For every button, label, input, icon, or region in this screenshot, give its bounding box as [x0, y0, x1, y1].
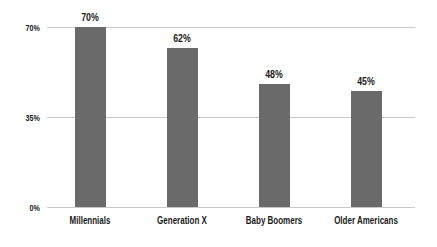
value-text-baby-boomers: 48%: [265, 68, 283, 81]
bar-generation-x: [167, 48, 198, 207]
value-label-older-americans: 45%: [355, 75, 377, 88]
y-tick-text-70-: 70%: [26, 23, 40, 33]
value-label-baby-boomers: 48%: [263, 68, 285, 81]
y-tick-label-0-: 0%: [0, 203, 40, 213]
category-text-millennials: Millennials: [70, 215, 111, 227]
value-text-older-americans: 45%: [357, 75, 375, 88]
category-text-older-americans: Older Americans: [334, 215, 398, 227]
y-tick-label-35-: 35%: [0, 113, 40, 123]
gridline-0-: [47, 207, 415, 208]
bar-older-americans: [351, 91, 382, 207]
category-label-millennials: Millennials: [64, 215, 115, 227]
value-text-millennials: 70%: [81, 11, 99, 24]
category-text-generation-x: Generation X: [157, 215, 207, 227]
value-text-generation-x: 62%: [173, 32, 191, 45]
y-tick-text-0-: 0%: [30, 203, 40, 213]
category-label-generation-x: Generation X: [151, 215, 213, 227]
y-tick-label-70-: 70%: [0, 23, 40, 33]
category-label-older-americans: Older Americans: [326, 215, 406, 227]
y-tick-text-35-: 35%: [26, 113, 40, 123]
value-label-millennials: 70%: [79, 11, 101, 24]
bar-baby-boomers: [259, 84, 290, 207]
category-label-baby-boomers: Baby Boomers: [239, 215, 310, 227]
category-text-baby-boomers: Baby Boomers: [246, 215, 302, 227]
bar-millennials: [75, 27, 106, 207]
bar-chart: 70%35%0%70%Millennials62%Generation X48%…: [0, 0, 437, 247]
value-label-generation-x: 62%: [171, 32, 193, 45]
